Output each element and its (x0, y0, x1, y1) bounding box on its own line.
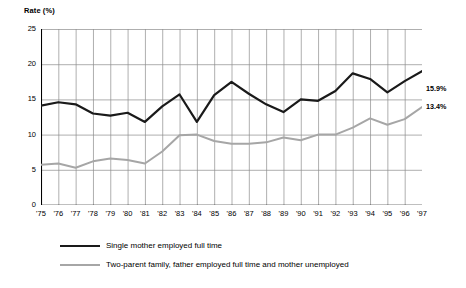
y-axis-tick-0: 0 (14, 200, 36, 209)
series-line-1 (41, 98, 422, 168)
horizontal-gridlines (41, 29, 422, 205)
y-axis-tick-5: 5 (14, 165, 36, 174)
data-series-layer (41, 57, 422, 168)
legend-swatch-0 (60, 245, 100, 247)
legend-swatch-1 (60, 264, 100, 266)
legend-item-1: Two-parent family, father employed full … (60, 255, 460, 274)
legend-item-0: Single mother employed full time (60, 236, 460, 255)
x-axis-tick-97: '97 (411, 209, 433, 218)
legend-label-1: Two-parent family, father employed full … (106, 260, 349, 269)
end-label-series-0: 15.9% (426, 84, 446, 93)
y-axis-tick-25: 25 (14, 24, 36, 33)
plot-area (41, 29, 422, 205)
chart-legend: Single mother employed full timeTwo-pare… (60, 236, 460, 274)
chart-svg (41, 29, 422, 205)
vertical-gridlines (42, 29, 423, 205)
y-axis-tick-10: 10 (14, 130, 36, 139)
end-label-series-1: 13.4% (426, 102, 446, 111)
y-axis-tick-15: 15 (14, 94, 36, 103)
chart-title: Rate (%) (24, 6, 55, 15)
series-line-0 (41, 57, 422, 122)
legend-label-0: Single mother employed full time (106, 241, 222, 250)
chart-container: Rate (%) 0510152025 '75'76'77'78'79'80'8… (0, 0, 466, 288)
y-axis-tick-20: 20 (14, 59, 36, 68)
